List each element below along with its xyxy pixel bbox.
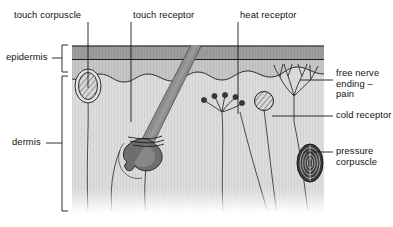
dermis-bracket	[62, 76, 68, 211]
label-epidermis: epidermis	[6, 52, 48, 63]
label-dermis: dermis	[12, 137, 41, 148]
skin-cross-section-svg	[0, 0, 393, 227]
label-pressure-corpuscle: pressure corpuscle	[336, 146, 392, 167]
label-free-nerve-ending-pain: free nerve ending – pain	[336, 68, 392, 100]
panel-bottom-fade	[72, 150, 324, 213]
label-heat-receptor: heat receptor	[240, 10, 297, 21]
label-touch-receptor: touch receptor	[133, 10, 194, 21]
epidermis-bracket	[62, 45, 68, 72]
skin-panel	[72, 8, 324, 213]
skin-diagram-figure: touch corpuscle touch receptor heat rece…	[0, 0, 393, 227]
label-cold-receptor: cold receptor	[336, 110, 392, 121]
label-touch-corpuscle: touch corpuscle	[14, 10, 81, 21]
layer-brackets	[46, 45, 68, 211]
cold-receptor-structure	[255, 92, 274, 111]
